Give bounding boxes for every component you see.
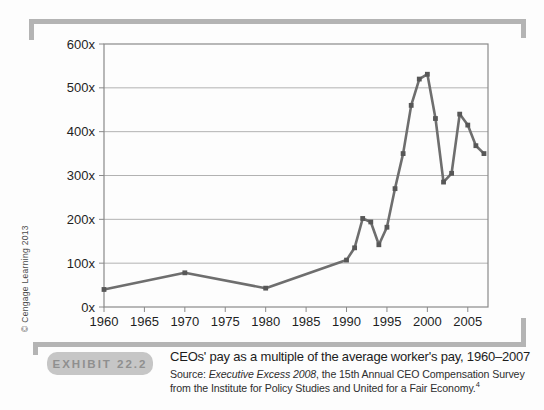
x-axis-label: 1985 [292,314,321,329]
x-axis-label: 1980 [251,314,280,329]
source-footnote-number: 4 [476,380,480,389]
x-axis-label: 1975 [211,314,240,329]
exhibit-badge-label: EXHIBIT 22.2 [53,358,148,370]
ceo-pay-line-chart: 0x100x200x300x400x500x600x19601965197019… [0,0,544,344]
data-point-marker [360,216,365,221]
data-point-marker [465,123,470,128]
y-axis-label: 200x [67,212,96,227]
data-point-marker [352,245,357,250]
caption-text-block: CEOs' pay as a multiple of the average w… [170,349,542,395]
data-point-marker [376,242,381,247]
data-point-marker [182,270,187,275]
data-point-marker [385,225,390,230]
data-point-marker [473,143,478,148]
data-point-marker [433,116,438,121]
x-axis-label: 2000 [413,314,442,329]
data-line [104,74,484,289]
data-point-marker [393,186,398,191]
x-axis-label: 1970 [170,314,199,329]
y-axis-label: 500x [67,80,96,95]
data-point-marker [263,286,268,291]
source-publication-title: Executive Excess 2008 [209,368,316,380]
figure-title: CEOs' pay as a multiple of the average w… [170,349,542,364]
line-chart-canvas: 0x100x200x300x400x500x600x19601965197019… [0,0,544,344]
x-axis-label: 1990 [332,314,361,329]
x-axis-label: 1965 [130,314,159,329]
y-axis-label: 400x [67,124,96,139]
figure-source: Source: Executive Excess 2008, the 15th … [170,367,532,395]
data-point-marker [457,112,462,117]
data-point-marker [417,77,422,82]
x-axis-label: 2005 [453,314,482,329]
y-axis-label: 300x [67,168,96,183]
x-axis-label: 1960 [90,314,119,329]
data-point-marker [425,72,430,77]
data-point-marker [409,103,414,108]
data-point-marker [368,220,373,225]
data-point-marker [401,151,406,156]
x-axis-label: 1995 [372,314,401,329]
y-axis-label: 100x [67,256,96,271]
data-point-marker [449,171,454,176]
exhibit-figure-page: © Cengage Learning 2013 0x100x200x300x40… [0,0,544,410]
data-point-marker [482,151,487,156]
data-point-marker [441,180,446,185]
data-point-marker [344,258,349,263]
data-point-marker [102,287,107,292]
exhibit-badge: EXHIBIT 22.2 [47,352,153,375]
y-axis-label: 600x [67,37,96,52]
source-prefix: Source: [170,368,209,380]
y-axis-label: 0x [81,300,95,315]
